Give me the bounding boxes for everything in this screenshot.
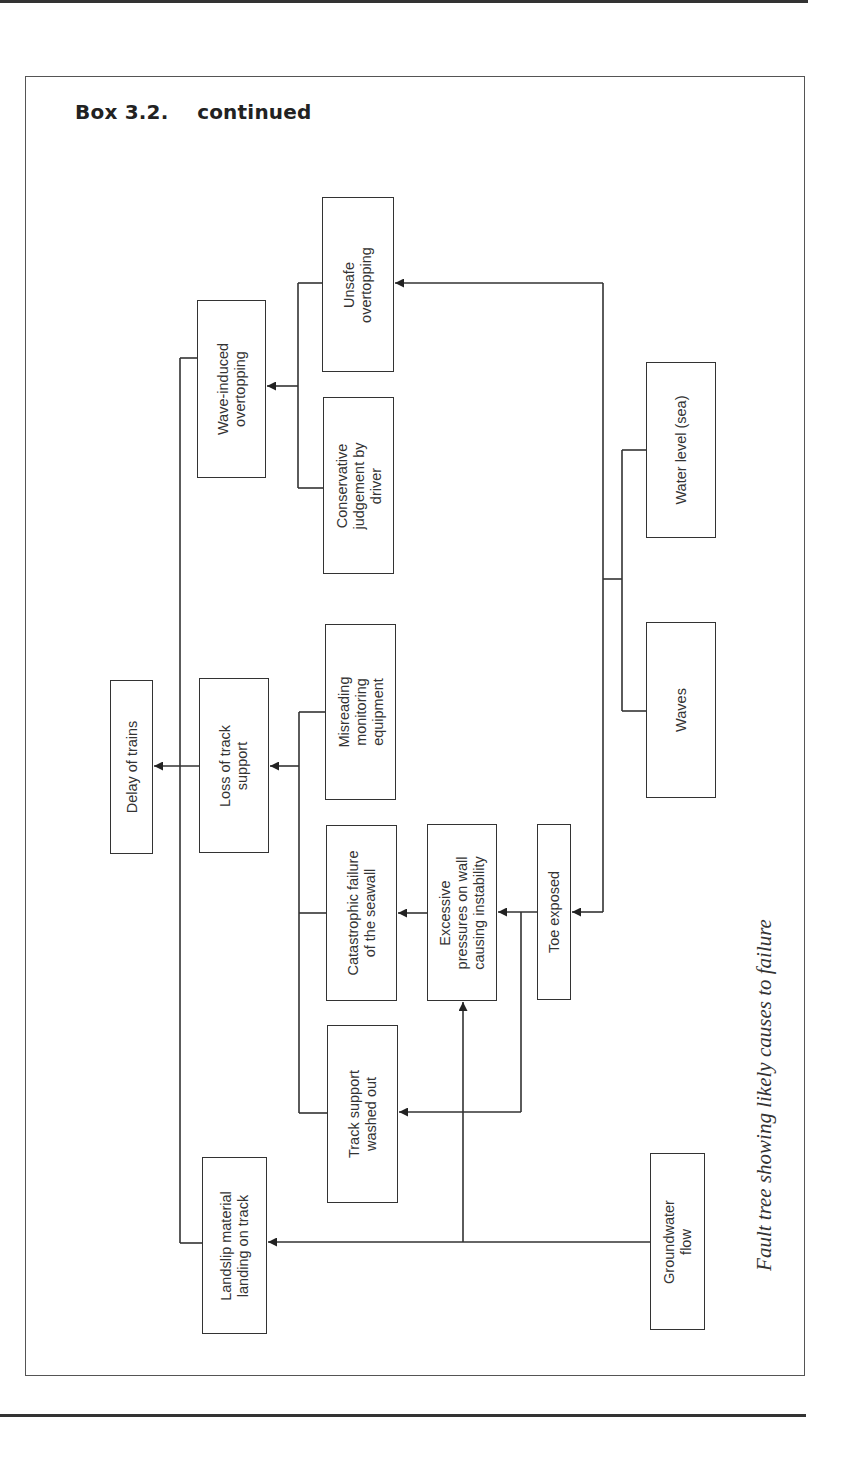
node-label: Unsafe overtopping <box>341 247 375 323</box>
node-label: Loss of track support <box>217 724 251 806</box>
node-waves: Waves <box>646 622 716 798</box>
node-label: Excessive pressures on wall causing inst… <box>437 856 488 970</box>
node-loss-of-track-support: Loss of track support <box>199 678 269 853</box>
node-label: Toe exposed <box>546 871 563 953</box>
node-unsafe-overtopping: Unsafe overtopping <box>322 197 394 372</box>
node-landslip-material: Landslip material landing on track <box>202 1157 267 1334</box>
node-delay-of-trains: Delay of trains <box>110 680 153 854</box>
figure-caption: Fault tree showing likely causes to fail… <box>752 919 777 1271</box>
node-label: Misreading monitoring equipment <box>335 677 386 748</box>
node-label: Track support washed out <box>346 1070 380 1158</box>
node-excessive-pressures: Excessive pressures on wall causing inst… <box>427 824 497 1001</box>
node-label: Conservative judgement by driver <box>333 442 384 529</box>
node-catastrophic-failure: Catastrophic failure of the seawall <box>326 825 397 1001</box>
bottom-rule <box>0 1414 806 1417</box>
node-groundwater-flow: Groundwater flow <box>650 1153 705 1330</box>
node-track-support-washed-out: Track support washed out <box>327 1025 398 1203</box>
node-toe-exposed: Toe exposed <box>537 824 571 1000</box>
node-misreading-monitoring-equipment: Misreading monitoring equipment <box>325 624 396 800</box>
node-water-level-sea: Water level (sea) <box>646 362 716 538</box>
node-label: Water level (sea) <box>673 395 690 504</box>
node-conservative-judgement: Conservative judgement by driver <box>323 397 394 574</box>
node-label: Groundwater flow <box>661 1200 695 1284</box>
node-label: Landslip material landing on track <box>218 1191 252 1301</box>
node-wave-induced-overtopping: Wave-induced overtopping <box>197 300 266 478</box>
node-label: Waves <box>673 688 690 732</box>
node-label: Wave-induced overtopping <box>215 343 249 435</box>
node-label: Delay of trains <box>123 721 140 814</box>
node-label: Catastrophic failure of the seawall <box>345 851 379 976</box>
